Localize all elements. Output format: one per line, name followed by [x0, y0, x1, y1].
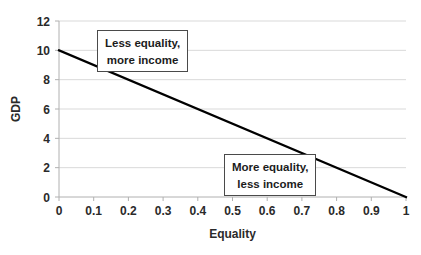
y-tick-label: 0 [43, 191, 50, 205]
x-tick-label: 1 [403, 204, 410, 218]
x-tick-label: 0.6 [259, 204, 276, 218]
x-axis-title: Equality [209, 227, 256, 241]
y-tick-label: 10 [37, 44, 51, 58]
y-tick-labels: 12 10 8 6 4 2 0 [37, 15, 51, 205]
annotation-line-1: Less equality, [105, 35, 180, 52]
line-chart-svg: 12 10 8 6 4 2 0 0 0.1 0.2 0.3 0.4 0.5 0.… [0, 0, 421, 255]
annotation-more-equality: More equality, less income [224, 154, 316, 196]
y-tick-label: 2 [43, 161, 50, 175]
y-tick-label: 6 [43, 103, 50, 117]
x-tick-label: 0.5 [224, 204, 241, 218]
x-tick-label: 0.9 [363, 204, 380, 218]
x-axis-ticks [59, 197, 406, 201]
y-tick-label: 8 [43, 73, 50, 87]
x-tick-labels: 0 0.1 0.2 0.3 0.4 0.5 0.6 0.7 0.8 0.9 1 [56, 204, 410, 218]
annotation-line-1: More equality, [232, 159, 308, 176]
y-tick-label: 4 [43, 132, 50, 146]
y-tick-label: 12 [37, 15, 51, 29]
x-tick-label: 0 [56, 204, 63, 218]
chart-container: 12 10 8 6 4 2 0 0 0.1 0.2 0.3 0.4 0.5 0.… [0, 0, 421, 255]
x-tick-label: 0.8 [328, 204, 345, 218]
x-tick-label: 0.2 [120, 204, 137, 218]
annotation-line-2: more income [105, 52, 180, 69]
x-tick-label: 0.4 [189, 204, 206, 218]
x-tick-label: 0.7 [294, 204, 311, 218]
x-tick-label: 0.1 [85, 204, 102, 218]
y-axis-ticks [55, 21, 59, 197]
y-axis-title: GDP [9, 96, 23, 122]
annotation-less-equality: Less equality, more income [97, 30, 188, 72]
x-tick-label: 0.3 [155, 204, 172, 218]
annotation-line-2: less income [232, 176, 308, 193]
